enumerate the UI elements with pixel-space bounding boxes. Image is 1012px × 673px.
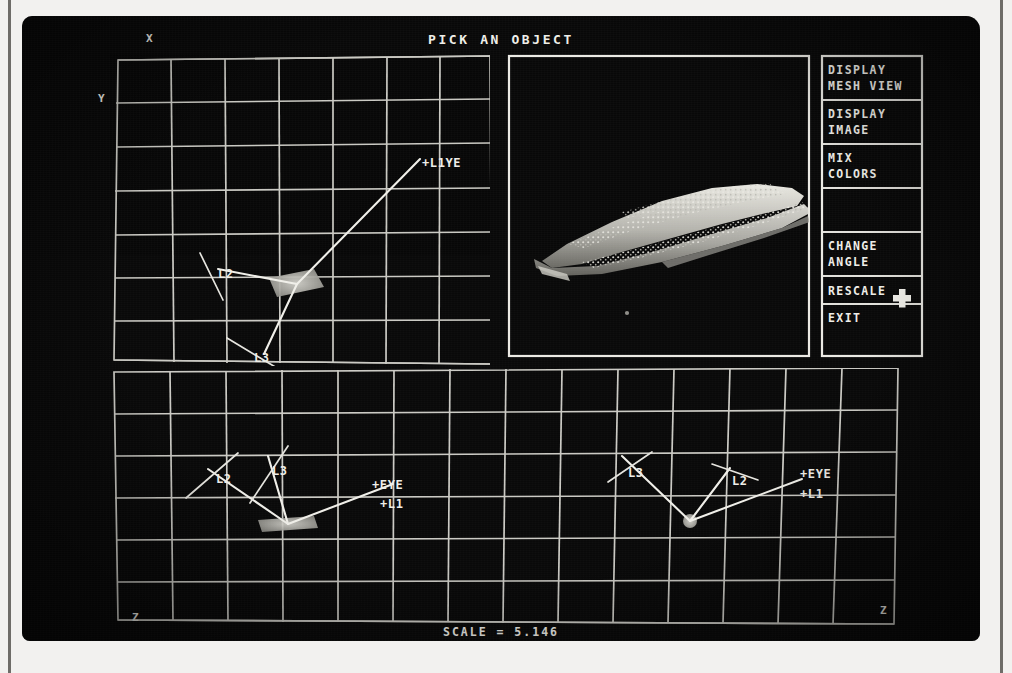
crt-screen: PICK AN OBJECT (22, 16, 980, 641)
axis-label-bottom-right-z: Z (880, 604, 888, 617)
axis-label-bottom-y: Y (858, 640, 866, 641)
menu-label-line1: CHANGE (828, 239, 878, 253)
label-l2-top: L2 (218, 267, 234, 281)
axis-label-bottom-left-z: Z (132, 611, 140, 624)
menu-item-mix-colors[interactable]: MIX COLORS (822, 144, 922, 188)
menu-item-change-angle[interactable]: CHANGE ANGLE (822, 232, 922, 276)
axis-label-left-y: Y (98, 92, 106, 105)
page-rule-left (8, 0, 11, 673)
label-eye-l1-top: +L1YE (422, 156, 461, 170)
menu-label-line2: ANGLE (828, 255, 870, 269)
label-l3-bottom-left: L3 (272, 464, 288, 478)
menu-item-blank[interactable] (822, 188, 922, 232)
axis-label-bottom-x: X (158, 640, 166, 641)
menu-label-line2: COLORS (828, 167, 878, 181)
mesh-dot-marker (625, 311, 629, 315)
label-l1-bottom-left: +L1 (380, 497, 403, 511)
menu-label-line1: EXIT (828, 311, 861, 325)
menu-label-line1: RESCALE (828, 284, 886, 298)
menu-item-display-mesh-view[interactable]: DISPLAY MESH VIEW (822, 56, 922, 100)
label-l1-bottom-right: +L1 (800, 487, 823, 501)
label-l3-top: L3 (254, 351, 270, 365)
menu-label-line1: DISPLAY (828, 107, 886, 121)
mesh-view-panel (509, 56, 812, 356)
menu-item-exit[interactable]: EXIT (822, 304, 922, 356)
menu-label-line2: IMAGE (828, 123, 870, 137)
label-eye-bottom-right: +EYE (800, 467, 831, 481)
label-l3-bottom-right: L3 (628, 466, 644, 480)
label-l2-bottom-right: L2 (732, 474, 748, 488)
axis-label-top-x: X (146, 32, 154, 45)
viewport-bottom: Z X Z Y L2 L3 +EYE +L1 (114, 368, 898, 641)
page-background: PICK AN OBJECT (0, 0, 1012, 673)
status-scale: SCALE = 5.146 (443, 625, 559, 639)
menu-item-display-image[interactable]: DISPLAY IMAGE (822, 100, 922, 144)
scene-canvas: PICK AN OBJECT (22, 16, 980, 641)
menu-label-line1: DISPLAY (828, 63, 886, 77)
screen-title: PICK AN OBJECT (428, 32, 574, 47)
viewport-top-left: X Y +L1YE L2 L3 (98, 32, 492, 368)
label-l2-bottom-left: L2 (216, 472, 232, 486)
menu-panel: DISPLAY MESH VIEW DISPLAY IMAGE MIX COLO… (822, 56, 922, 356)
menu-label-line2: MESH VIEW (828, 79, 903, 93)
page-rule-right (1000, 0, 1003, 673)
menu-label-line1: MIX (828, 151, 853, 165)
label-eye-bottom-left: +EYE (372, 478, 403, 492)
